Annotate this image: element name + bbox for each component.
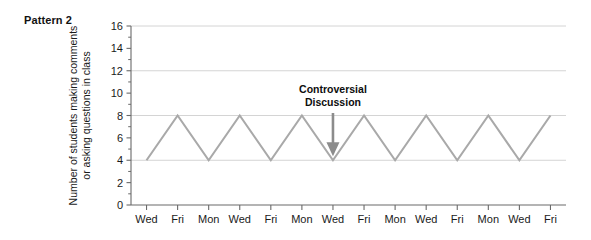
- x-tick-label-2: Mon: [198, 213, 219, 225]
- y-tick-label-10: 10: [111, 87, 123, 99]
- x-axis-ticks: [147, 205, 551, 210]
- y-tick-label-4: 4: [117, 154, 123, 166]
- x-tick-label-6: Wed: [322, 213, 344, 225]
- x-tick-label-12: Wed: [508, 213, 530, 225]
- y-axis-label: Number of students making commentsor ask…: [67, 26, 92, 206]
- y-axis-label-line-1: Number of students making comments: [67, 26, 79, 206]
- annotation-line-1: Controversial: [299, 83, 367, 95]
- x-axis-tick-labels: WedFriMonWedFriMonWedFriMonWedFriMonWedF…: [135, 213, 557, 225]
- data-series-line: [147, 116, 551, 161]
- y-axis-tick-labels: 0246810121416: [111, 20, 123, 211]
- page-title: Pattern 2: [24, 14, 72, 26]
- x-tick-label-0: Wed: [135, 213, 157, 225]
- x-tick-label-8: Mon: [384, 213, 405, 225]
- y-tick-label-6: 6: [117, 132, 123, 144]
- y-tick-label-16: 16: [111, 20, 123, 32]
- y-tick-label-12: 12: [111, 65, 123, 77]
- x-tick-label-7: Fri: [358, 213, 371, 225]
- y-tick-label-8: 8: [117, 110, 123, 122]
- x-tick-label-9: Wed: [415, 213, 437, 225]
- annotation-controversial-discussion: Controversial Discussion: [299, 83, 367, 156]
- y-axis-label-line-2: or asking questions in class: [80, 51, 92, 179]
- x-tick-label-1: Fri: [171, 213, 184, 225]
- x-tick-label-11: Mon: [478, 213, 499, 225]
- y-tick-label-2: 2: [117, 177, 123, 189]
- y-tick-label-14: 14: [111, 42, 123, 54]
- x-tick-label-5: Mon: [291, 213, 312, 225]
- y-axis-major-ticks: [127, 26, 132, 205]
- y-tick-label-0: 0: [117, 199, 123, 211]
- chart-figure: Pattern 2 0246810121416 WedFriMonWedFriM…: [0, 0, 591, 240]
- line-chart: 0246810121416 WedFriMonWedFriMonWedFriMo…: [0, 0, 591, 240]
- x-tick-label-13: Fri: [544, 213, 557, 225]
- x-tick-label-10: Fri: [451, 213, 464, 225]
- annotation-line-2: Discussion: [305, 96, 361, 108]
- down-arrow-icon: [326, 113, 339, 156]
- x-tick-label-4: Fri: [264, 213, 277, 225]
- x-tick-label-3: Wed: [229, 213, 251, 225]
